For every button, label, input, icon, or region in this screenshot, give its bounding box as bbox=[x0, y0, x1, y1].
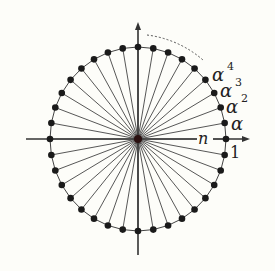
root-point bbox=[58, 182, 65, 189]
root-point bbox=[119, 226, 126, 233]
root-point bbox=[165, 222, 172, 229]
root-point bbox=[221, 120, 228, 127]
axis-label-n: n bbox=[198, 129, 208, 148]
root-point bbox=[191, 65, 198, 72]
root-point bbox=[91, 56, 98, 63]
root-point bbox=[58, 90, 65, 97]
root-point bbox=[105, 49, 112, 56]
y-axis-arrow-icon bbox=[135, 22, 141, 30]
root-point bbox=[179, 56, 186, 63]
label-alpha4: α bbox=[212, 64, 224, 85]
root-point bbox=[179, 215, 186, 222]
root-point bbox=[202, 77, 209, 84]
root-point bbox=[217, 104, 224, 111]
root-point bbox=[202, 195, 209, 202]
center-point bbox=[134, 135, 142, 143]
root-point bbox=[48, 152, 55, 159]
root-point bbox=[119, 45, 126, 52]
x-axis-arrow-icon bbox=[242, 136, 250, 142]
label-alpha4-exponent: 4 bbox=[227, 60, 234, 73]
root-point bbox=[211, 182, 218, 189]
root-point bbox=[78, 65, 85, 72]
root-point bbox=[223, 136, 230, 143]
root-point bbox=[191, 206, 198, 213]
root-point bbox=[135, 44, 142, 51]
root-point bbox=[211, 90, 218, 97]
root-point bbox=[221, 152, 228, 159]
root-point bbox=[52, 104, 59, 111]
root-point bbox=[150, 45, 157, 52]
label-alpha2-exponent: 2 bbox=[241, 92, 248, 105]
root-point bbox=[91, 215, 98, 222]
label-alpha3-exponent: 3 bbox=[235, 76, 242, 89]
label-one: 1 bbox=[230, 143, 240, 162]
root-point bbox=[217, 167, 224, 174]
root-point bbox=[52, 167, 59, 174]
root-point bbox=[105, 222, 112, 229]
root-point bbox=[48, 120, 55, 127]
root-point bbox=[150, 226, 157, 233]
root-point bbox=[165, 49, 172, 56]
root-point bbox=[78, 206, 85, 213]
roots-of-unity-diagram: n 1 α α 2 α 3 α 4 bbox=[0, 0, 275, 271]
root-point bbox=[67, 77, 74, 84]
root-point bbox=[67, 195, 74, 202]
root-point bbox=[47, 136, 54, 143]
root-point bbox=[135, 228, 142, 235]
